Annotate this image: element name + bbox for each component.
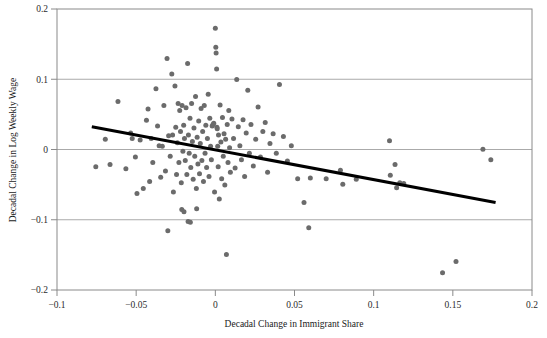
scatter-plot: −0.2−0.100.10.2 −0.1−0.0500.050.10.150.2… — [0, 0, 547, 338]
data-point — [161, 103, 166, 108]
chart-background — [0, 0, 547, 338]
data-point — [103, 137, 108, 142]
data-point — [172, 83, 177, 88]
data-point — [193, 94, 198, 99]
data-point — [394, 185, 399, 190]
data-point — [224, 252, 229, 257]
data-point — [201, 179, 206, 184]
y-axis-tick-label: 0.1 — [36, 75, 48, 85]
data-point — [248, 122, 253, 127]
data-point — [138, 138, 143, 143]
data-point — [174, 172, 179, 177]
data-point — [229, 116, 234, 121]
data-point — [295, 176, 300, 181]
data-point — [188, 220, 193, 225]
data-point — [223, 137, 228, 142]
data-point — [184, 172, 189, 177]
data-point — [183, 158, 188, 163]
data-point — [454, 259, 459, 264]
x-axis-tick-label: −0.1 — [48, 300, 65, 310]
data-point — [227, 145, 232, 150]
data-point — [206, 92, 211, 97]
data-point — [281, 134, 286, 139]
data-point — [141, 186, 146, 191]
data-point — [222, 182, 227, 187]
data-point — [203, 151, 208, 156]
data-point — [233, 166, 238, 171]
data-point — [241, 117, 246, 122]
chart-container: −0.2−0.100.10.2 −0.1−0.0500.050.10.150.2… — [0, 0, 547, 338]
data-point — [242, 174, 247, 179]
data-point — [168, 154, 173, 159]
data-point — [191, 126, 196, 131]
data-point — [160, 144, 165, 149]
data-point — [231, 136, 236, 141]
data-point — [207, 116, 212, 121]
data-point — [212, 190, 217, 195]
data-point — [219, 176, 224, 181]
data-point — [155, 123, 160, 128]
data-point — [324, 176, 329, 181]
data-point — [202, 103, 207, 108]
data-point — [147, 179, 152, 184]
data-point — [181, 209, 186, 214]
data-point — [267, 141, 272, 146]
data-point — [197, 171, 202, 176]
data-point — [182, 136, 187, 141]
data-point — [234, 77, 239, 82]
x-axis-tick-label: −0.05 — [125, 300, 147, 310]
data-point — [260, 129, 265, 134]
data-point — [217, 197, 222, 202]
data-point — [216, 133, 221, 138]
data-point — [200, 129, 205, 134]
data-point — [150, 160, 155, 165]
data-point — [130, 136, 135, 141]
data-point — [205, 136, 210, 141]
data-point — [245, 88, 250, 93]
data-point — [302, 200, 307, 205]
data-point — [218, 102, 223, 107]
data-point — [144, 118, 149, 123]
data-point — [214, 67, 219, 72]
data-point — [179, 180, 184, 185]
data-point — [191, 177, 196, 182]
data-point — [195, 161, 200, 166]
data-point — [188, 116, 193, 121]
data-point — [165, 56, 170, 61]
data-point — [340, 182, 345, 187]
data-point — [215, 126, 220, 131]
data-point — [192, 154, 197, 159]
data-point — [115, 99, 120, 104]
data-point — [308, 175, 313, 180]
data-point — [207, 174, 212, 179]
y-axis-tick-label: −0.2 — [31, 285, 48, 295]
data-point — [253, 137, 258, 142]
data-point — [265, 170, 270, 175]
data-point — [214, 50, 219, 55]
data-point — [289, 143, 294, 148]
y-axis-tick-label: 0.2 — [36, 4, 48, 14]
data-point — [123, 166, 128, 171]
data-point — [387, 138, 392, 143]
data-point — [108, 162, 113, 167]
data-point — [222, 131, 227, 136]
data-point — [203, 123, 208, 128]
data-point — [169, 71, 174, 76]
data-point — [158, 175, 163, 180]
data-point — [226, 108, 231, 113]
data-point — [196, 119, 201, 124]
data-point — [190, 139, 195, 144]
data-point — [440, 270, 445, 275]
data-point — [220, 115, 225, 120]
data-point — [194, 206, 199, 211]
y-axis-title: Decadal Change in Log Weekly Wage — [8, 78, 18, 223]
data-point — [199, 158, 204, 163]
data-point — [93, 164, 98, 169]
data-point — [195, 135, 200, 140]
data-point — [176, 160, 181, 165]
data-point — [237, 143, 242, 148]
data-point — [388, 173, 393, 178]
data-point — [256, 105, 261, 110]
data-point — [165, 228, 170, 233]
data-point — [221, 154, 226, 159]
